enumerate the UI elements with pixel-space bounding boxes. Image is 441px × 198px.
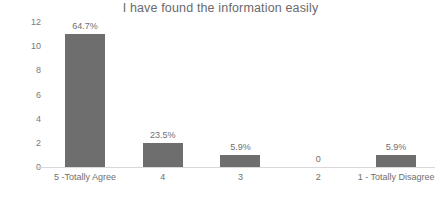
y-tick-label: 10 [31, 41, 41, 51]
bar[interactable] [376, 155, 416, 167]
chart-title: I have found the information easily [0, 1, 441, 15]
x-axis-labels: 5 -Totally Agree4321 - Totally Disagree [46, 172, 435, 182]
bar-series: 64.7%23.5%5.9%05.9% [46, 22, 435, 167]
y-tick-label: 2 [36, 138, 41, 148]
bar-category: 5.9% [357, 22, 435, 167]
bar-value-label: 5.9% [230, 142, 251, 152]
bar[interactable] [143, 143, 183, 167]
y-tick-label: 12 [31, 17, 41, 27]
y-tick-label: 6 [36, 90, 41, 100]
x-tick-label: 2 [279, 172, 357, 182]
bar-category: 5.9% [202, 22, 280, 167]
bar-value-label: 64.7% [72, 21, 98, 31]
bar-value-label: 0 [316, 154, 321, 164]
x-axis-line [38, 167, 435, 168]
y-tick-label: 8 [36, 65, 41, 75]
x-tick-label: 4 [124, 172, 202, 182]
bar-value-label: 23.5% [150, 130, 176, 140]
bar[interactable] [220, 155, 260, 167]
x-tick-label: 3 [202, 172, 280, 182]
bar[interactable] [65, 34, 105, 167]
x-tick-label: 5 -Totally Agree [46, 172, 124, 182]
y-tick-label: 4 [36, 114, 41, 124]
bar-category: 0 [279, 22, 357, 167]
x-tick-label: 1 - Totally Disagree [357, 172, 435, 182]
bar-value-label: 5.9% [386, 142, 407, 152]
plot-area: Number of Users 121086420 64.7%23.5%5.9%… [46, 22, 435, 167]
bar-category: 64.7% [46, 22, 124, 167]
bar-category: 23.5% [124, 22, 202, 167]
bar-chart: I have found the information easily Numb… [0, 0, 441, 198]
